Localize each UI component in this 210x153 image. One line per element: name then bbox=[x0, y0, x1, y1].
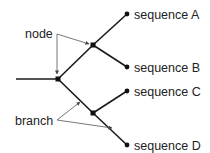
node-arrow-to-upper-node bbox=[57, 34, 89, 44]
branch-annotation-label: branch bbox=[15, 114, 53, 128]
upper-node bbox=[91, 43, 96, 48]
branch-to-sequence-c bbox=[93, 91, 127, 113]
leaf-dot-a bbox=[125, 12, 130, 17]
branch-to-sequence-a bbox=[93, 14, 127, 45]
leaf-label-d: sequence D bbox=[134, 139, 201, 153]
leaf-dot-c bbox=[125, 89, 130, 94]
branch-to-sequence-d bbox=[93, 113, 127, 145]
branch-root-to-upper-node bbox=[58, 45, 93, 79]
internal-nodes bbox=[56, 43, 96, 116]
phylogenetic-tree-diagram: sequence A sequence B sequence C sequenc… bbox=[0, 0, 210, 153]
branch-arrow-to-root-lower-branch bbox=[57, 102, 80, 120]
root-node bbox=[56, 77, 61, 82]
leaf-dot-d bbox=[125, 143, 130, 148]
lower-node bbox=[91, 111, 96, 116]
node-annotation-label: node bbox=[25, 27, 53, 41]
leaf-dot-b bbox=[125, 65, 130, 70]
leaf-dots bbox=[125, 12, 130, 148]
branch-root-to-lower-node bbox=[58, 79, 93, 113]
branch-to-sequence-b bbox=[93, 45, 127, 67]
leaf-label-a: sequence A bbox=[134, 8, 200, 22]
leaf-label-c: sequence C bbox=[134, 85, 201, 99]
leaf-label-b: sequence B bbox=[134, 61, 200, 75]
